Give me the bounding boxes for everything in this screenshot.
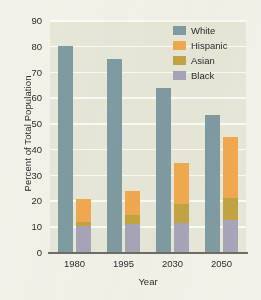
y-axis-tick-label: 90 [22,15,42,26]
bar-segment-black [174,223,189,252]
population-bar-chart: Percent of Total Population 010203040506… [0,0,261,300]
legend-swatch-icon [173,41,186,50]
bar-white [58,46,73,252]
legend-label: Hispanic [191,40,227,51]
bar-segment-hispanic [223,137,238,198]
bar-group [99,20,148,252]
y-axis-tick-label: 60 [22,92,42,103]
x-axis-line [48,252,248,254]
bar-segment-asian [125,215,140,225]
y-axis-tick-label: 0 [22,247,42,258]
bar-white [205,115,220,252]
bar-stacked-minorities [76,199,91,252]
bar-segment-asian [76,222,91,226]
bar-segment-asian [174,204,189,223]
bar-segment-hispanic [125,191,140,214]
legend-swatch-icon [173,26,186,35]
y-axis-tick-label: 30 [22,169,42,180]
x-axis-tick-label: 1995 [101,258,147,269]
bar-segment-black [76,226,91,252]
bar-segment-hispanic [174,163,189,204]
legend-item-hispanic: Hispanic [173,39,227,53]
y-axis-tick-label: 80 [22,40,42,51]
x-axis-tick-label: 2030 [150,258,196,269]
bar-segment-black [125,224,140,252]
x-axis-tick-label: 1980 [52,258,98,269]
bar-segment-asian [223,198,238,220]
bar-stacked-minorities [174,163,189,252]
legend-swatch-icon [173,56,186,65]
y-axis-tick-label: 20 [22,195,42,206]
x-axis-title: Year [50,276,246,287]
legend-swatch-icon [173,71,186,80]
legend-label: Black [191,70,214,81]
bar-segment-hispanic [76,199,91,222]
y-axis-tick-label: 40 [22,143,42,154]
bar-stacked-minorities [125,191,140,252]
bar-white [107,59,122,252]
legend-item-black: Black [173,69,227,83]
bar-segment-black [223,220,238,252]
y-axis-tick-label: 70 [22,66,42,77]
legend-item-asian: Asian [173,54,227,68]
x-axis-tick-label: 2050 [199,258,245,269]
bar-white [156,88,171,252]
legend-item-white: White [173,24,227,38]
legend-label: Asian [191,55,215,66]
y-axis-tick-label: 50 [22,118,42,129]
bar-stacked-minorities [223,137,238,252]
bar-group [50,20,99,252]
legend-label: White [191,25,215,36]
chart-legend: WhiteHispanicAsianBlack [173,24,227,84]
y-axis-tick-label: 10 [22,221,42,232]
